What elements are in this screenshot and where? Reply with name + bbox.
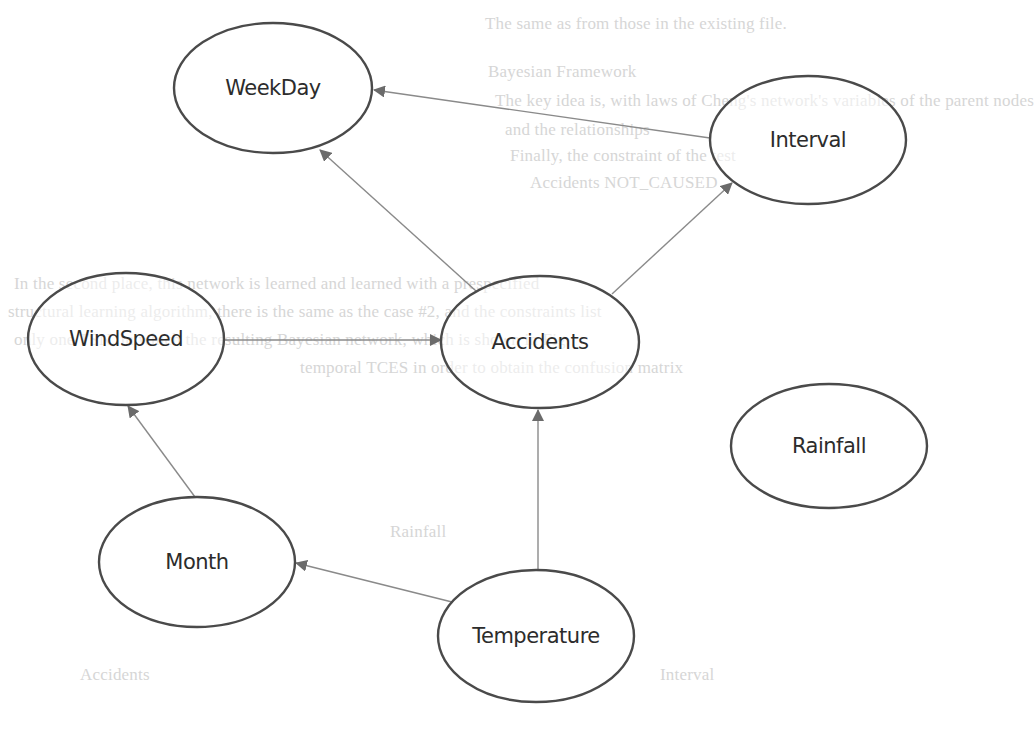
node-label-rainfall: Rainfall: [792, 434, 866, 458]
edge-temperature-to-month: [296, 563, 452, 602]
node-month[interactable]: Month: [99, 497, 295, 627]
edge-month-to-windspeed: [128, 406, 195, 497]
edge-accidents-to-weekday: [320, 150, 476, 291]
node-label-windspeed: WindSpeed: [69, 327, 183, 351]
node-windspeed[interactable]: WindSpeed: [28, 273, 224, 405]
node-label-weekday: WeekDay: [225, 76, 321, 100]
node-label-month: Month: [165, 550, 228, 574]
node-label-accidents: Accidents: [491, 330, 588, 354]
edge-interval-to-weekday: [374, 90, 710, 138]
node-label-temperature: Temperature: [471, 624, 600, 648]
node-accidents[interactable]: Accidents: [441, 276, 639, 408]
node-temperature[interactable]: Temperature: [438, 570, 634, 702]
node-interval[interactable]: Interval: [710, 76, 906, 204]
node-label-interval: Interval: [770, 128, 846, 152]
node-rainfall[interactable]: Rainfall: [731, 384, 927, 508]
edge-accidents-to-interval: [612, 183, 732, 294]
node-weekday[interactable]: WeekDay: [174, 23, 372, 153]
nodes-group: WeekDayIntervalWindSpeedAccidentsRainfal…: [28, 23, 927, 702]
